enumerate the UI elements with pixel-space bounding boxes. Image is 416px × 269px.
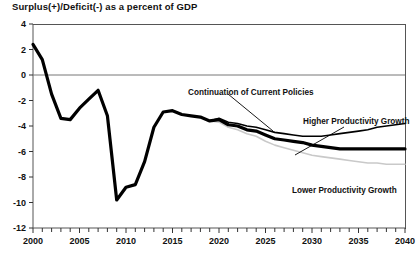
y-tick-label: -10 [0,198,26,208]
y-tick-label: -2 [0,96,26,106]
x-tick-label: 2015 [153,236,193,246]
y-tick-label: 4 [0,19,26,29]
annotation-label-continuation: Continuation of Current Policies [188,88,314,97]
y-tick-label: -6 [0,147,26,157]
x-tick-label: 2005 [60,236,100,246]
x-axis-group [33,228,405,233]
chart-svg [0,0,416,269]
x-axis-ticks [33,228,405,233]
y-tick-label: 0 [0,70,26,80]
y-tick-label: 2 [0,45,26,55]
x-tick-label: 2040 [385,236,416,246]
x-tick-label: 2000 [13,236,53,246]
annotation-label-lower: Lower Productivity Growth [292,186,397,195]
y-tick-label: -8 [0,172,26,182]
annotation-label-higher: Higher Productivity Growth [303,117,409,126]
y-axis-ticks [29,24,33,228]
x-tick-label: 2020 [199,236,239,246]
x-tick-label: 2025 [246,236,286,246]
y-tick-label: -12 [0,223,26,233]
chart-container: Surplus(+)/Deficit(-) as a percent of GD… [0,0,416,269]
x-tick-label: 2035 [339,236,379,246]
x-tick-label: 2030 [292,236,332,246]
y-axis-group [29,24,33,228]
x-tick-label: 2010 [106,236,146,246]
y-tick-label: -4 [0,121,26,131]
